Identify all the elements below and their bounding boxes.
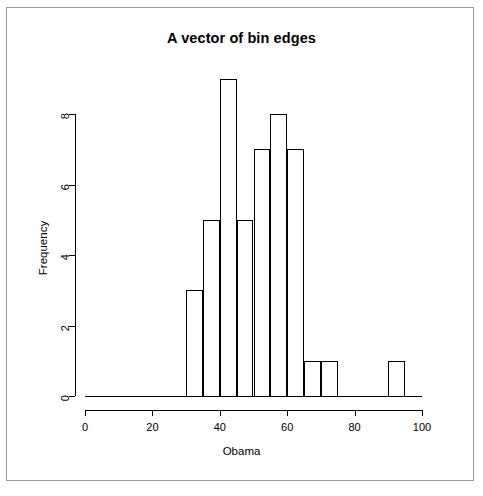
baseline	[85, 396, 422, 397]
y-axis-line	[75, 114, 76, 396]
histogram-bar	[203, 220, 220, 396]
figure-canvas: A vector of bin edges 02040608010002468 …	[0, 0, 483, 496]
y-axis-tick-label: 6	[59, 184, 71, 210]
histogram-bar	[287, 149, 304, 396]
histogram-bar	[186, 290, 203, 396]
histogram-bar	[237, 220, 254, 396]
histogram-bar	[321, 361, 338, 396]
x-axis-tick-label: 0	[65, 421, 105, 433]
y-axis-tick-label: 8	[59, 113, 71, 139]
x-axis-tick-label: 100	[402, 421, 442, 433]
x-axis-tick-label: 40	[200, 421, 240, 433]
histogram-bar	[304, 361, 321, 396]
histogram-bar	[220, 79, 237, 396]
y-axis-label: Frequency	[37, 221, 49, 275]
x-axis-label: Obama	[0, 445, 483, 457]
x-axis-tick-label: 80	[335, 421, 375, 433]
x-axis-tick	[85, 410, 86, 416]
x-axis-tick	[287, 410, 288, 416]
histogram-bar	[270, 114, 287, 396]
histogram-bar	[254, 149, 271, 396]
x-axis-tick	[422, 410, 423, 416]
y-axis-tick-label: 0	[59, 395, 71, 421]
x-axis-line	[85, 410, 422, 411]
y-axis-tick-label: 2	[59, 325, 71, 351]
x-axis-tick	[220, 410, 221, 416]
y-axis-tick-label: 4	[59, 254, 71, 280]
x-axis-tick	[152, 410, 153, 416]
x-axis-tick-label: 20	[132, 421, 172, 433]
histogram-bar	[388, 361, 405, 396]
x-axis-tick	[355, 410, 356, 416]
plot-area: 02040608010002468	[0, 0, 483, 496]
x-axis-tick-label: 60	[267, 421, 307, 433]
